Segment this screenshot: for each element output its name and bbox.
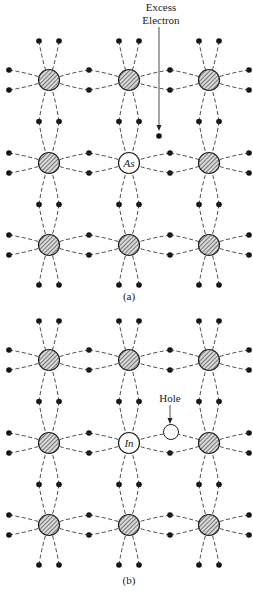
silicon-atom: [39, 153, 60, 174]
impurity-atom-label: As: [123, 157, 135, 169]
silicon-atom: [119, 70, 140, 91]
silicon-atom: [119, 515, 140, 536]
excess-electron-dot: [156, 133, 162, 139]
silicon-atom: [199, 70, 220, 91]
silicon-atom: [39, 515, 60, 536]
panel-a-arsenic-doped-lattice: As: [6, 38, 252, 288]
silicon-atom: [199, 350, 220, 371]
silicon-atom: [199, 153, 220, 174]
crystal-lattice-diagram: As In Excess Electron (a) Hole (b): [0, 0, 253, 592]
excess-electron-arrowhead-icon: [157, 125, 162, 131]
hole-circle: [164, 425, 179, 440]
panel-a-caption: (a): [123, 290, 136, 303]
excess-electron-label-line1: Excess: [146, 1, 177, 13]
panel-b-caption: (b): [123, 574, 136, 587]
hole-label: Hole: [159, 392, 181, 404]
silicon-atom: [39, 433, 60, 454]
excess-electron-label-line2: Electron: [142, 14, 180, 26]
silicon-atom: [39, 235, 60, 256]
hole-arrowhead-icon: [168, 418, 173, 424]
silicon-atom: [119, 350, 140, 371]
silicon-atom: [39, 70, 60, 91]
silicon-atom: [199, 515, 220, 536]
silicon-atom: [39, 350, 60, 371]
silicon-atom: [199, 433, 220, 454]
panel-b-indium-doped-lattice: In: [6, 318, 252, 568]
silicon-atom: [119, 235, 140, 256]
impurity-atom-label: In: [123, 437, 134, 449]
silicon-atom: [199, 235, 220, 256]
